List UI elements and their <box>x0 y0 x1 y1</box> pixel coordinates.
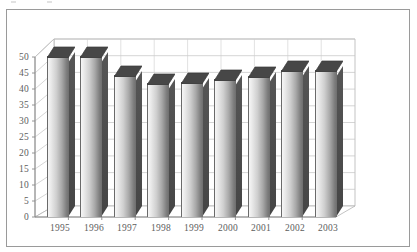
bar-top-1996 <box>80 46 108 58</box>
bar-side-1995 <box>68 52 75 217</box>
bar-side-1996 <box>101 52 108 217</box>
y-tick-label-45: 45 <box>9 68 29 78</box>
bar-1999 <box>181 10 209 217</box>
scan-artifact-left <box>11 1 16 3</box>
y-tick-label-50: 50 <box>9 52 29 62</box>
y-tick-label-10: 10 <box>9 180 29 190</box>
bar-face-1995 <box>47 56 69 217</box>
bar-side-1998 <box>168 79 175 217</box>
bar-2003 <box>315 10 343 217</box>
bar-2001 <box>248 10 276 217</box>
y-tick-label-40: 40 <box>9 84 29 94</box>
bar-top-2002 <box>281 60 309 72</box>
y-tick-label-25: 25 <box>9 132 29 142</box>
y-tick-label-20: 20 <box>9 148 29 158</box>
bar-2000 <box>214 10 242 217</box>
y-tick-label-35: 35 <box>9 100 29 110</box>
bar-face-1999 <box>181 82 203 217</box>
bar-side-1999 <box>202 78 209 217</box>
bar-face-1996 <box>80 56 102 217</box>
bar-face-1998 <box>147 83 169 217</box>
bar-top-2000 <box>214 69 242 81</box>
bar-2002 <box>281 10 309 217</box>
bar-face-2003 <box>315 70 337 217</box>
chart-figure: 50 45 40 35 30 25 20 15 10 5 0 <box>6 9 410 247</box>
bar-top-1995 <box>47 46 75 58</box>
bar-top-2003 <box>315 60 343 72</box>
y-tick-label-5: 5 <box>9 196 29 206</box>
scan-artifact-right <box>47 1 52 3</box>
bar-face-2001 <box>248 76 270 217</box>
bar-side-2000 <box>235 75 242 217</box>
bar-1997 <box>114 10 142 217</box>
y-tick-label-30: 30 <box>9 116 29 126</box>
bar-face-1997 <box>114 75 136 217</box>
bar-1995 <box>47 10 75 217</box>
bar-top-1999 <box>181 72 209 84</box>
bar-1998 <box>147 10 175 217</box>
bar-face-2002 <box>281 70 303 217</box>
y-tick-label-15: 15 <box>9 164 29 174</box>
bar-side-2002 <box>302 66 309 217</box>
plot-area: 50 45 40 35 30 25 20 15 10 5 0 <box>7 10 411 248</box>
bar-side-2001 <box>269 72 276 217</box>
y-tick-label-0: 0 <box>9 212 29 222</box>
bar-top-1997 <box>114 65 142 77</box>
bar-top-2001 <box>248 66 276 78</box>
x-tick-label-2003: 2003 <box>307 223 349 233</box>
bar-side-1997 <box>135 71 142 217</box>
bar-1996 <box>80 10 108 217</box>
bar-face-2000 <box>214 79 236 217</box>
bar-top-1998 <box>147 73 175 85</box>
bar-side-2003 <box>336 66 343 217</box>
